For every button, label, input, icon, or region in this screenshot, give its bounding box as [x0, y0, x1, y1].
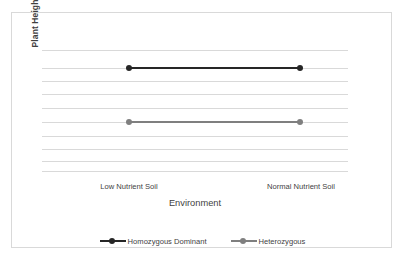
- legend-marker-icon-homozygous-dominant: [100, 236, 126, 246]
- legend-item-homozygous-dominant[interactable]: Homozygous Dominant: [100, 236, 207, 246]
- legend-label-homozygous-dominant: Homozygous Dominant: [128, 237, 207, 246]
- data-point-heterozygous-normal: [297, 119, 303, 125]
- x-axis-title: Environment: [42, 198, 348, 208]
- gridline: [42, 161, 348, 162]
- gridline: [42, 50, 348, 51]
- data-point-homozygous-dominant-normal: [297, 65, 303, 71]
- legend-item-heterozygous[interactable]: Heterozygous: [231, 236, 306, 246]
- gridline: [42, 81, 348, 82]
- series-line-homozygous-dominant: [129, 67, 300, 69]
- y-axis-title: Plant Height: [30, 0, 44, 82]
- gridline: [42, 108, 348, 109]
- data-point-heterozygous-low: [126, 119, 132, 125]
- plot-area: Low Nutrient Soil Normal Nutrient Soil E…: [42, 50, 348, 171]
- gridline: [42, 136, 348, 137]
- legend-label-heterozygous: Heterozygous: [259, 237, 306, 246]
- x-tick-label-low-nutrient-soil: Low Nutrient Soil: [83, 182, 175, 191]
- chart-container: Low Nutrient Soil Normal Nutrient Soil E…: [11, 12, 392, 248]
- chart-legend: Homozygous Dominant Heterozygous: [12, 231, 393, 251]
- series-line-heterozygous: [129, 121, 300, 123]
- gridline: [42, 149, 348, 150]
- x-tick-label-normal-nutrient-soil: Normal Nutrient Soil: [251, 182, 351, 191]
- gridline: [42, 171, 348, 172]
- gridline: [42, 94, 348, 95]
- data-point-homozygous-dominant-low: [126, 65, 132, 71]
- y-axis-title-wrapper: Plant Height: [34, 68, 48, 188]
- legend-marker-icon-heterozygous: [231, 236, 257, 246]
